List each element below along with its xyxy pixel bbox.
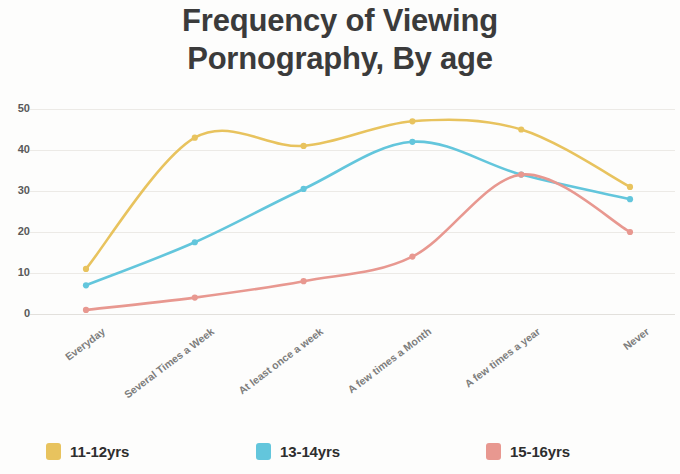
series-line <box>86 174 630 310</box>
legend-item-13-14yrs[interactable]: 13-14yrs <box>256 443 340 460</box>
data-point[interactable] <box>301 143 307 149</box>
series-line <box>86 120 630 269</box>
data-point[interactable] <box>192 239 198 245</box>
data-point[interactable] <box>518 172 524 178</box>
data-point[interactable] <box>192 135 198 141</box>
legend-item-11-12yrs[interactable]: 11-12yrs <box>46 443 129 460</box>
data-point[interactable] <box>83 282 89 288</box>
data-point[interactable] <box>409 139 415 145</box>
data-point[interactable] <box>301 278 307 284</box>
title-line-2: Pornography, By age <box>0 40 680 78</box>
data-point[interactable] <box>83 266 89 272</box>
series-15-16yrs <box>83 172 633 314</box>
x-axis: EverydaySeveral Times a WeekAt least onc… <box>30 319 675 424</box>
data-point[interactable] <box>627 184 633 190</box>
chart-canvas: Frequency of Viewing Pornography, By age… <box>0 0 680 474</box>
data-point[interactable] <box>301 186 307 192</box>
data-point[interactable] <box>409 118 415 124</box>
legend-item-15-16yrs[interactable]: 15-16yrs <box>486 443 570 460</box>
chart-legend: 11-12yrs13-14yrs15-16yrs <box>0 443 680 473</box>
y-axis-tick-label: 0 <box>4 307 30 319</box>
y-axis-tick-label: 30 <box>4 184 30 196</box>
page-title: Frequency of Viewing Pornography, By age <box>0 2 680 78</box>
x-axis-tick-label: A few times a year <box>462 325 542 389</box>
legend-label: 13-14yrs <box>280 443 340 460</box>
y-axis-tick-label: 20 <box>4 225 30 237</box>
data-point[interactable] <box>192 295 198 301</box>
series-11-12yrs <box>83 118 633 272</box>
y-axis-tick-label: 50 <box>4 102 30 114</box>
legend-label: 15-16yrs <box>510 443 570 460</box>
series-13-14yrs <box>83 139 633 289</box>
data-point[interactable] <box>627 196 633 202</box>
y-axis-tick-label: 10 <box>4 266 30 278</box>
x-axis-tick-label: Everyday <box>63 325 108 363</box>
x-axis-tick-label: At least once a week <box>236 325 325 396</box>
x-axis-tick-label: Several Times a Week <box>121 325 216 400</box>
plot-area <box>30 104 675 319</box>
title-line-1: Frequency of Viewing <box>0 2 680 40</box>
legend-color-swatch <box>256 443 271 460</box>
line-series-layer <box>30 104 675 319</box>
data-point[interactable] <box>83 307 89 313</box>
legend-color-swatch <box>46 443 61 460</box>
data-point[interactable] <box>409 254 415 260</box>
data-point[interactable] <box>627 229 633 235</box>
data-point[interactable] <box>518 126 524 132</box>
legend-label: 11-12yrs <box>70 443 129 460</box>
x-axis-tick-label: A few times a Month <box>346 325 434 395</box>
x-axis-tick-label: Never <box>621 325 652 352</box>
y-axis-tick-label: 40 <box>4 143 30 155</box>
legend-color-swatch <box>486 443 501 460</box>
series-line <box>86 142 630 286</box>
